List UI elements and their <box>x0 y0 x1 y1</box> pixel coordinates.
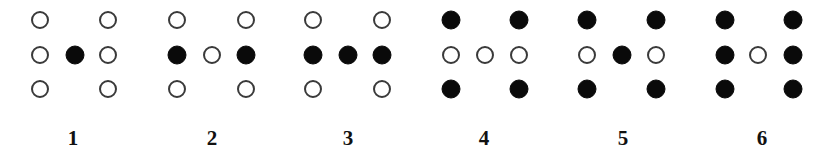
filled-dot <box>237 46 255 64</box>
filled-dot <box>373 46 391 64</box>
panel-label: 3 <box>343 126 354 150</box>
open-dot <box>32 81 48 97</box>
open-dot <box>238 81 254 97</box>
panel-label: 4 <box>479 126 490 150</box>
open-dot <box>443 47 459 63</box>
open-dot <box>374 12 390 28</box>
dot-pattern-figure: 123456 <box>0 0 834 155</box>
open-dot <box>305 81 321 97</box>
open-dot <box>32 47 48 63</box>
filled-dot <box>510 11 528 29</box>
filled-dot <box>168 46 186 64</box>
filled-dot <box>339 46 357 64</box>
panel-label: 1 <box>68 126 79 150</box>
figure-canvas: 123456 <box>0 0 834 155</box>
filled-dot <box>784 80 802 98</box>
filled-dot <box>784 11 802 29</box>
filled-dot <box>784 46 802 64</box>
open-dot <box>32 12 48 28</box>
open-dot <box>169 12 185 28</box>
panel-6: 6 <box>716 11 802 150</box>
panel-2: 2 <box>168 12 255 150</box>
open-dot <box>477 47 493 63</box>
filled-dot <box>716 46 734 64</box>
filled-dot <box>66 46 84 64</box>
open-dot <box>238 12 254 28</box>
filled-dot <box>613 46 631 64</box>
filled-dot <box>578 80 596 98</box>
panel-3: 3 <box>304 12 391 150</box>
filled-dot <box>304 46 322 64</box>
panel-label: 2 <box>207 126 218 150</box>
panel-4: 4 <box>442 11 528 150</box>
panel-1: 1 <box>32 12 116 150</box>
filled-dot <box>716 80 734 98</box>
open-dot <box>100 12 116 28</box>
open-dot <box>648 47 664 63</box>
open-dot <box>100 81 116 97</box>
open-dot <box>305 12 321 28</box>
open-dot <box>204 47 220 63</box>
open-dot <box>750 47 766 63</box>
panel-label: 6 <box>757 126 768 150</box>
open-dot <box>169 81 185 97</box>
filled-dot <box>647 80 665 98</box>
open-dot <box>579 47 595 63</box>
filled-dot <box>578 11 596 29</box>
filled-dot <box>510 80 528 98</box>
panel-5: 5 <box>578 11 665 150</box>
panel-label: 5 <box>618 126 629 150</box>
filled-dot <box>716 11 734 29</box>
filled-dot <box>442 80 460 98</box>
open-dot <box>100 47 116 63</box>
open-dot <box>374 81 390 97</box>
filled-dot <box>647 11 665 29</box>
open-dot <box>511 47 527 63</box>
filled-dot <box>442 11 460 29</box>
